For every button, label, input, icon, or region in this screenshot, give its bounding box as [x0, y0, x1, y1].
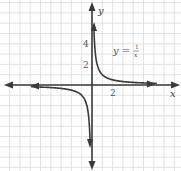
y-tick-label-2: 2	[83, 60, 89, 70]
x-axis-label: x	[170, 88, 176, 99]
x-axis-left-arrow-icon	[4, 82, 13, 89]
y-tick-label-4: 4	[83, 39, 89, 49]
equation-label: y = 1 x	[112, 43, 139, 58]
curve-left-arrow-icon	[30, 83, 39, 90]
equation-numerator: 1	[135, 43, 139, 50]
graph-canvas: y x 2 4 2 y = 1 x	[0, 0, 181, 171]
y-axis-label: y	[97, 5, 104, 16]
y-axis-up-arrow-icon	[89, 2, 96, 11]
x-tick-label-2: 2	[110, 88, 116, 98]
y-axis-down-arrow-icon	[89, 161, 96, 170]
equation-lhs: y =	[112, 45, 130, 56]
curve-right-arrow-icon	[147, 81, 156, 88]
equation-denominator: x	[134, 51, 138, 58]
